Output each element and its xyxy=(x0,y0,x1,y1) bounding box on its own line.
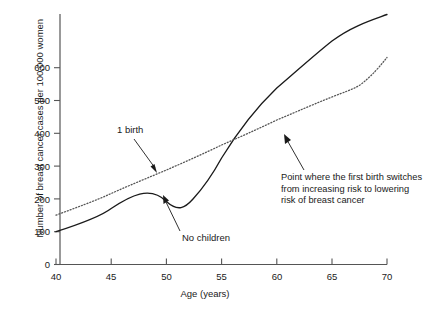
series-label-one-birth: 1 birth xyxy=(117,124,143,136)
crossover-annotation-line-3: risk of breast cancer xyxy=(281,195,422,207)
series-label-no-children: No children xyxy=(182,232,230,244)
x-tick-label-70: 70 xyxy=(372,271,402,282)
one-birth-arrow xyxy=(134,139,157,173)
x-tick-label-60: 60 xyxy=(262,271,292,282)
y-tick-label-500: 500 xyxy=(22,95,50,106)
y-tick-label-300: 300 xyxy=(22,161,50,172)
no-children-arrow xyxy=(163,195,180,231)
x-tick-label-45: 45 xyxy=(96,271,126,282)
y-tick-label-400: 400 xyxy=(22,128,50,139)
x-tick-label-65: 65 xyxy=(317,271,347,282)
y-tick-label-100: 100 xyxy=(22,226,50,237)
crossover-annotation-text: Point where the first birth switches fro… xyxy=(281,172,422,207)
y-tick-label-200: 200 xyxy=(22,194,50,205)
x-tick-label-40: 40 xyxy=(41,271,71,282)
x-tick-label-50: 50 xyxy=(152,271,182,282)
y-tick-label-0: 0 xyxy=(22,259,50,270)
crossover-arrow xyxy=(284,134,304,170)
crossover-annotation-line-2: from increasing risk to lowering xyxy=(281,184,422,196)
crossover-annotation-line-1: Point where the first birth switches xyxy=(281,172,422,184)
breast-cancer-risk-chart: Number of breast cancer cases per 100,00… xyxy=(0,0,434,319)
x-tick-label-55: 55 xyxy=(207,271,237,282)
y-tick-label-600: 600 xyxy=(22,62,50,73)
y-tick-marks xyxy=(54,68,60,265)
x-tick-marks xyxy=(56,259,387,265)
x-axis-title: Age (years) xyxy=(150,288,260,299)
